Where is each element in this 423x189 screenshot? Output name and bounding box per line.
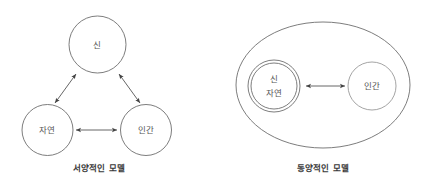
panel-western: 신 자연 인간 서양적인 모델 xyxy=(22,16,172,173)
container-whole-ellipse[interactable] xyxy=(236,22,410,148)
connector-god-human[interactable] xyxy=(119,74,140,103)
node-human[interactable]: 인간 xyxy=(121,105,172,156)
node-human-label: 인간 xyxy=(138,125,154,135)
node-god-nature-outer-ring[interactable] xyxy=(248,60,300,112)
connector-nature-god[interactable] xyxy=(55,74,76,103)
node-god-nature-label-bottom: 자연 xyxy=(266,88,282,98)
node-human-eastern-label: 인간 xyxy=(364,81,380,91)
caption-eastern: 동양적인 모델 xyxy=(297,163,349,173)
node-nature-label: 자연 xyxy=(39,125,55,135)
node-god-nature-inner-ring[interactable] xyxy=(251,63,297,109)
node-god-label: 신 xyxy=(93,40,101,50)
node-human-eastern[interactable]: 인간 xyxy=(348,62,396,110)
panel-eastern: 신 자연 인간 동양적인 모델 xyxy=(236,22,410,173)
node-god[interactable]: 신 xyxy=(69,16,126,73)
caption-western: 서양적인 모델 xyxy=(73,163,125,173)
diagram-root: 신 자연 인간 서양적인 모델 신 자연 xyxy=(0,0,423,189)
node-god-nature[interactable]: 신 자연 xyxy=(248,60,300,112)
node-god-nature-label-top: 신 xyxy=(270,74,278,84)
figure-canvas: 신 자연 인간 서양적인 모델 신 자연 xyxy=(0,0,423,189)
node-nature[interactable]: 자연 xyxy=(22,105,73,156)
